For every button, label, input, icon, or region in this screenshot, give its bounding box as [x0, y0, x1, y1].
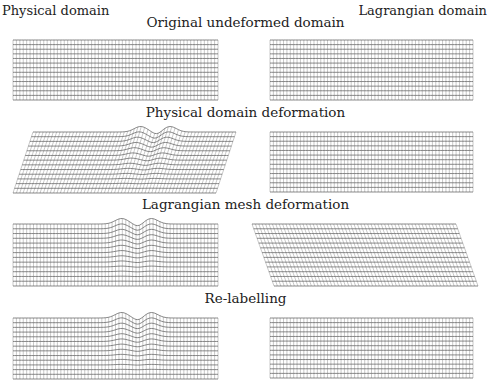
lagrangian-mesh-physical-deformation [270, 132, 473, 192]
physical-mesh-physical-deformation [13, 127, 236, 193]
lagrangian-mesh-lagrangian-mesh-deformation [252, 224, 478, 286]
lagrangian-mesh-original [270, 40, 473, 100]
mesh-diagram [0, 0, 491, 392]
lagrangian-mesh-relabelling [270, 318, 473, 378]
physical-mesh-original [13, 40, 218, 100]
physical-mesh-lagrangian-mesh-deformation [13, 219, 218, 286]
physical-mesh-relabelling [13, 313, 218, 379]
